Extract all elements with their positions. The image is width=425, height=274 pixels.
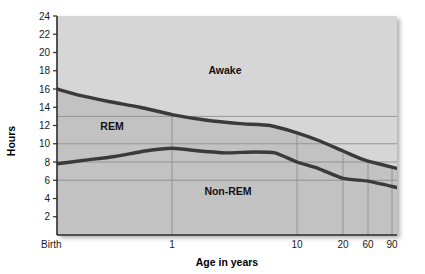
y-tick-label-12: 12 (39, 120, 51, 131)
x-tick-label-90: 90 (386, 239, 398, 250)
x-tick-label-60: 60 (362, 239, 374, 250)
x-axis-title: Age in years (196, 256, 259, 268)
y-tick-label-18: 18 (39, 65, 51, 76)
y-axis-title: Hours (5, 126, 17, 156)
y-tick-label-4: 4 (44, 193, 50, 204)
y-tick-label-20: 20 (39, 47, 51, 58)
y-tick-label-2: 2 (44, 211, 50, 222)
sleep-hours-chart: 24681012141618202224 Birth110206090 Hour… (0, 0, 425, 274)
y-tick-label-6: 6 (44, 175, 50, 186)
chart-canvas: 24681012141618202224 Birth110206090 Hour… (0, 0, 425, 274)
y-tick-label-16: 16 (39, 84, 51, 95)
annotation-awake: Awake (208, 64, 241, 76)
x-tick-label-20: 20 (337, 239, 349, 250)
y-tick-label-24: 24 (39, 11, 51, 22)
annotation-rem: REM (100, 120, 124, 132)
x-tick-label-10: 10 (291, 239, 303, 250)
y-tick-label-10: 10 (39, 138, 51, 149)
x-tick-label-birth: Birth (41, 239, 62, 250)
y-tick-label-22: 22 (39, 29, 51, 40)
annotation-non-rem: Non-REM (204, 185, 251, 197)
y-tick-label-14: 14 (39, 102, 51, 113)
y-tick-label-8: 8 (44, 157, 50, 168)
x-tick-label-1: 1 (169, 239, 175, 250)
